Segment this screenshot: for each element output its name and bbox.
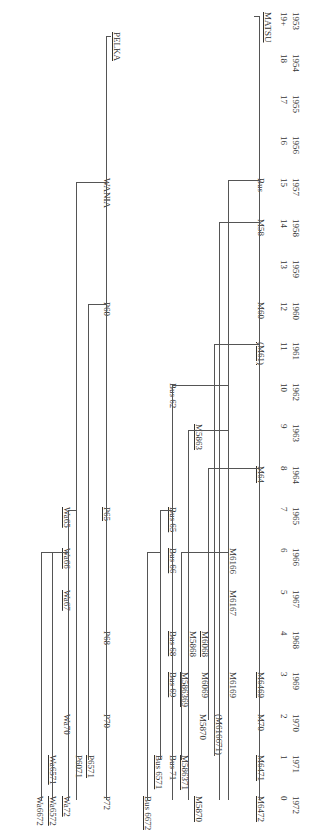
connector-line [228, 180, 259, 181]
branch-line [147, 552, 148, 800]
node-label: M5870 [194, 796, 204, 822]
year-label: 1960 [291, 302, 301, 320]
connector-line [208, 468, 259, 469]
year-label: 1970 [291, 714, 301, 732]
count-label: 2 [279, 714, 289, 719]
connector-line [76, 182, 106, 183]
branch-line [259, 16, 260, 800]
year-label: 1955 [291, 95, 301, 113]
node-label: M5863 [194, 424, 204, 450]
branch-line [52, 552, 53, 800]
count-label: 12 [279, 302, 289, 311]
branch-line [208, 468, 209, 720]
count-label: 7 [279, 507, 289, 512]
count-label: 17 [279, 95, 289, 104]
year-label: 1962 [291, 383, 301, 401]
node-label: P68 [102, 631, 112, 645]
count-label: 13 [279, 260, 289, 269]
node-label: M6169 [228, 672, 238, 698]
node-label: Wa6672 [35, 796, 45, 826]
node-label: Bus 6672 [143, 796, 153, 830]
year-label: 1969 [291, 672, 301, 690]
node-label: M70 [256, 714, 266, 731]
connector-line [219, 222, 259, 223]
node-label: M6166 [228, 548, 238, 574]
year-label: 1966 [291, 548, 301, 566]
count-label: 18 [279, 54, 289, 63]
node-label: M5870 [198, 714, 208, 740]
count-label: 4 [279, 631, 289, 636]
node-label: P72 [102, 796, 112, 810]
node-label: Bus 6571 [154, 755, 164, 789]
count-label: 15 [279, 178, 289, 187]
count-label: 8 [279, 466, 289, 471]
branch-line [68, 510, 69, 800]
count-label: 19+ [279, 12, 289, 26]
year-label: 1965 [291, 507, 301, 525]
count-label: 11 [279, 342, 289, 351]
connector-line [68, 510, 76, 511]
node-label: M6471 [256, 755, 266, 781]
branch-line [106, 36, 107, 800]
year-label: 1958 [291, 219, 301, 237]
connector-line [254, 16, 259, 17]
branch-line [160, 510, 161, 760]
count-label: 3 [279, 672, 289, 677]
connector-line [52, 552, 68, 553]
connector-line [172, 385, 228, 386]
branch-line [228, 180, 229, 800]
branch-line [181, 552, 182, 760]
connector-line [106, 36, 111, 37]
year-label: 1961 [291, 342, 301, 360]
branch-line [188, 430, 189, 800]
year-label: 1964 [291, 466, 301, 484]
branch-line [219, 222, 220, 800]
year-label: 1954 [291, 54, 301, 72]
branch-line [41, 552, 42, 800]
connector-line [214, 344, 259, 345]
node-label: (M61) [256, 342, 266, 365]
count-label: 9 [279, 424, 289, 429]
branch-line [88, 304, 89, 760]
year-label: 1968 [291, 631, 301, 649]
branch-line [76, 182, 77, 800]
connector-line [188, 430, 228, 431]
count-label: 10 [279, 383, 289, 392]
root-label: MATSU [263, 12, 273, 43]
node-label: Wa72 [62, 796, 72, 817]
node-label: M5868 [188, 631, 198, 657]
count-label: 1 [279, 755, 289, 760]
node-label: M6167 [228, 590, 238, 616]
node-label: Bus 69 [168, 672, 178, 697]
connector-line [181, 552, 228, 553]
year-label: 1967 [291, 590, 301, 608]
year-label: 1957 [291, 178, 301, 196]
connector-line [88, 304, 106, 305]
node-label: M60 [256, 302, 266, 319]
count-label: 0 [279, 796, 289, 801]
branch-line [172, 385, 173, 800]
root-label: PELKA [112, 32, 122, 61]
node-label: Wa6572 [48, 796, 58, 826]
node-label: Wa67 [62, 590, 72, 611]
connector-line [160, 510, 172, 511]
connector-line [41, 552, 52, 553]
node-label: M6472 [256, 796, 266, 822]
branch-line [214, 344, 215, 756]
node-label: Bus 66 [168, 548, 178, 573]
count-label: 5 [279, 590, 289, 595]
node-label: Wa70 [62, 714, 72, 735]
year-label: 1959 [291, 260, 301, 278]
node-label: M6469 [256, 672, 266, 698]
count-label: 14 [279, 219, 289, 228]
node-label: Bus 68 [168, 631, 178, 656]
count-label: 16 [279, 136, 289, 145]
year-label: 1971 [291, 755, 301, 773]
count-label: 6 [279, 548, 289, 553]
year-label: 1972 [291, 796, 301, 814]
node-label: P65 [102, 507, 112, 521]
year-label: 1963 [291, 424, 301, 442]
node-label: P70 [102, 714, 112, 728]
year-label: 1956 [291, 136, 301, 154]
node-label: Wa6571 [48, 755, 58, 785]
